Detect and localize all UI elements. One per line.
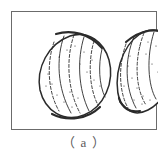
- speckle-10: [147, 41, 148, 42]
- speckle-6: [151, 63, 152, 64]
- speckle-15: [69, 91, 70, 92]
- speckle-4: [149, 99, 150, 100]
- figure-panel: （ a ）: [0, 0, 168, 163]
- caption-row: （ a ）: [0, 132, 168, 151]
- speckle-1: [131, 77, 132, 78]
- speckle-13: [123, 85, 124, 86]
- speckle-12: [83, 51, 84, 52]
- speckle-14: [133, 99, 134, 100]
- speckle-8: [99, 85, 100, 86]
- speckle-5: [79, 63, 80, 64]
- speckle-15: [141, 103, 142, 104]
- speckle-11: [155, 45, 156, 46]
- shell-outline: [117, 30, 158, 113]
- speckle-11: [74, 45, 75, 46]
- figure-caption: （ a ）: [62, 135, 105, 150]
- left-specimen: [39, 32, 110, 118]
- speckle-0: [47, 73, 48, 74]
- speckle-13: [91, 59, 92, 60]
- speckle-14: [45, 85, 46, 86]
- speckle-9: [58, 56, 59, 57]
- speckle-3: [142, 95, 143, 96]
- speckle-2: [56, 94, 57, 95]
- speckle-1: [51, 83, 52, 84]
- speckle-4: [71, 106, 72, 107]
- speckle-16: [77, 97, 78, 98]
- speckle-9: [139, 45, 140, 46]
- specimen-line-drawing: [12, 12, 158, 131]
- speckle-2: [136, 87, 137, 88]
- speckle-7: [93, 79, 94, 80]
- right-specimen: [117, 30, 158, 113]
- speckle-6: [86, 71, 87, 72]
- speckle-0: [127, 65, 128, 66]
- figure-frame: [11, 11, 157, 130]
- speckle-5: [145, 53, 146, 54]
- speckle-10: [66, 49, 67, 50]
- speckle-3: [63, 101, 64, 102]
- speckle-17: [129, 55, 130, 56]
